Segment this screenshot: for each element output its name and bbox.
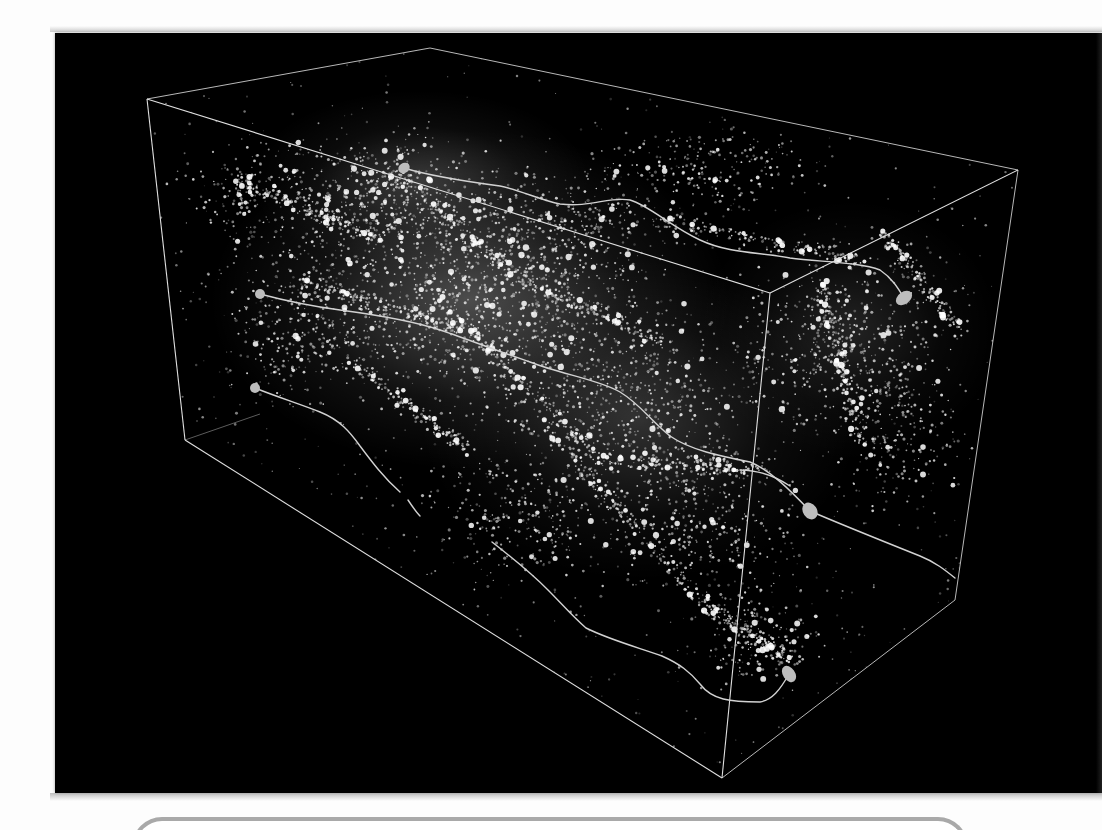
ray-lower-segment	[408, 500, 420, 516]
marker-left-lower	[250, 383, 260, 393]
panel-right-shadow	[1096, 33, 1102, 793]
figure-page	[0, 0, 1102, 830]
caption-frame	[132, 817, 968, 830]
panel-top-rim	[50, 26, 1102, 32]
marker-left-middle	[255, 289, 265, 299]
panel-bottom-rim	[50, 793, 1102, 801]
cosmic-web-figure	[55, 33, 1102, 793]
cosmic-web-svg	[55, 33, 1102, 793]
ray-left-middle-branch	[810, 511, 955, 578]
marker-bottom	[779, 663, 799, 685]
